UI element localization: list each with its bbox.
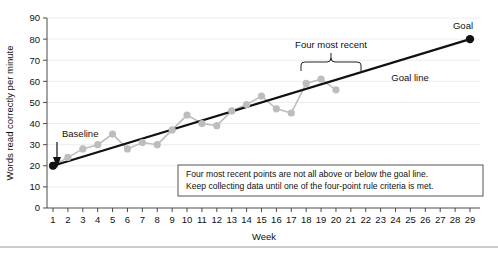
- y-tick-label: 80: [29, 34, 40, 45]
- data-point: [213, 122, 220, 129]
- x-tick-label: 13: [226, 214, 237, 225]
- x-tick-label: 23: [375, 214, 386, 225]
- data-point: [258, 93, 265, 100]
- data-point: [183, 112, 190, 119]
- data-point: [228, 107, 235, 114]
- x-tick-label: 4: [95, 214, 100, 225]
- y-tick-label: 90: [29, 12, 40, 23]
- data-point: [303, 80, 310, 87]
- x-tick-label: 19: [316, 214, 327, 225]
- data-point: [317, 76, 324, 83]
- x-tick-label: 3: [80, 214, 85, 225]
- x-tick-label: 20: [331, 214, 342, 225]
- data-point: [288, 109, 295, 116]
- x-tick-label: 28: [450, 214, 461, 225]
- x-axis-ticks: 1234567891011121314151617181920212223242…: [50, 208, 475, 225]
- x-tick-label: 10: [182, 214, 193, 225]
- data-point: [124, 145, 131, 152]
- x-axis-title: Week: [252, 231, 276, 242]
- x-tick-label: 17: [286, 214, 297, 225]
- y-tick-label: 30: [29, 139, 40, 150]
- x-tick-label: 27: [435, 214, 446, 225]
- x-tick-label: 25: [405, 214, 416, 225]
- y-tick-label: 10: [29, 181, 40, 192]
- goal-line-label: Goal line: [391, 72, 429, 83]
- y-tick-label: 40: [29, 118, 40, 129]
- x-tick-label: 26: [420, 214, 431, 225]
- data-point: [243, 101, 250, 108]
- chart-canvas: 0102030405060708090 12345678910111213141…: [0, 0, 498, 254]
- four-most-recent-label: Four most recent: [295, 39, 367, 50]
- data-point: [94, 141, 101, 148]
- x-tick-label: 11: [197, 214, 207, 225]
- data-point: [109, 131, 116, 138]
- y-tick-label: 60: [29, 76, 40, 87]
- x-tick-label: 1: [50, 214, 55, 225]
- y-axis-title: Words read correctly per minute: [4, 46, 15, 181]
- x-tick-label: 29: [465, 214, 476, 225]
- y-axis-ticks: 0102030405060708090: [29, 12, 47, 213]
- data-point: [332, 86, 339, 93]
- note-line-2: Keep collecting data until one of the fo…: [186, 181, 433, 191]
- data-point: [79, 145, 86, 152]
- x-tick-label: 2: [65, 214, 70, 225]
- y-tick-label: 0: [35, 202, 40, 213]
- x-tick-label: 8: [155, 214, 160, 225]
- note-line-1: Four most recent points are not all abov…: [186, 169, 428, 179]
- data-point: [139, 139, 146, 146]
- y-tick-label: 70: [29, 55, 40, 66]
- data-point: [64, 154, 71, 161]
- x-tick-label: 6: [125, 214, 130, 225]
- baseline-label: Baseline: [62, 128, 98, 139]
- x-tick-label: 7: [140, 214, 145, 225]
- x-tick-label: 24: [390, 214, 401, 225]
- data-point: [198, 120, 205, 127]
- x-tick-label: 9: [169, 214, 174, 225]
- x-tick-label: 16: [271, 214, 282, 225]
- goal-point: [466, 35, 474, 43]
- data-point: [169, 126, 176, 133]
- data-point: [273, 105, 280, 112]
- x-tick-label: 12: [212, 214, 223, 225]
- x-tick-label: 21: [346, 214, 357, 225]
- goal-label: Goal: [453, 20, 473, 31]
- y-tick-label: 20: [29, 160, 40, 171]
- x-tick-label: 15: [256, 214, 267, 225]
- data-point: [154, 141, 161, 148]
- x-tick-label: 22: [360, 214, 371, 225]
- x-tick-label: 18: [301, 214, 312, 225]
- y-tick-label: 50: [29, 97, 40, 108]
- progress-monitoring-chart: 0102030405060708090 12345678910111213141…: [0, 0, 498, 254]
- x-tick-label: 5: [110, 214, 115, 225]
- x-tick-label: 14: [241, 214, 252, 225]
